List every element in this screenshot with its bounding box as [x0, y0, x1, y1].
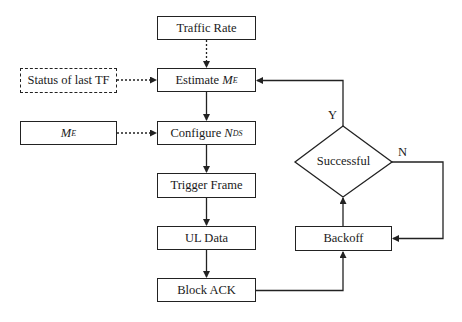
node-configure: Configure NDS [157, 121, 256, 145]
node-subscript: E [71, 129, 76, 138]
node-label: Block ACK [177, 283, 236, 298]
node-label: Backoff [323, 231, 363, 246]
node-variable: N [224, 126, 232, 141]
edge-label-yes: Y [328, 108, 337, 123]
node-backoff: Backoff [295, 226, 392, 251]
node-variable: M [222, 73, 232, 88]
node-label: Configure [171, 126, 225, 141]
node-label: Traffic Rate [176, 21, 236, 36]
edge-successful-no-to-backoff [392, 162, 443, 239]
node-estimate: Estimate ME [157, 68, 256, 92]
node-ul-data: UL Data [157, 226, 256, 250]
edge-blockack-to-backoff [256, 252, 343, 291]
node-status-last-tf: Status of last TF [20, 68, 117, 93]
node-label: Status of last TF [27, 73, 109, 88]
node-traffic-rate: Traffic Rate [157, 16, 256, 40]
decision-successful-label: Successful [295, 154, 392, 169]
node-trigger-frame: Trigger Frame [157, 173, 256, 198]
node-subscript: DS [233, 129, 243, 138]
node-me-input: ME [20, 121, 117, 145]
node-label: Estimate [175, 73, 222, 88]
flowchart-connectors [0, 0, 462, 322]
edge-label-no: N [398, 145, 407, 160]
node-block-ack: Block ACK [157, 278, 256, 302]
node-label: Trigger Frame [170, 178, 242, 193]
node-variable: M [61, 126, 71, 141]
node-label: UL Data [185, 231, 228, 246]
node-subscript: E [233, 76, 238, 85]
